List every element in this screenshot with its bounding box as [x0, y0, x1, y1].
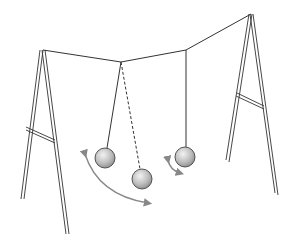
right-a-frame: [226, 14, 278, 195]
middle-pendulum-bob: [132, 169, 152, 189]
suspension-string: [43, 14, 251, 62]
pendulum-diagram: [0, 0, 291, 248]
middle-pendulum-thread: [121, 62, 140, 169]
left-pendulum-bob: [95, 148, 115, 168]
right-pendulum-bob: [175, 147, 195, 167]
left-a-frame: [21, 50, 69, 234]
left-pendulum-thread: [107, 62, 121, 148]
